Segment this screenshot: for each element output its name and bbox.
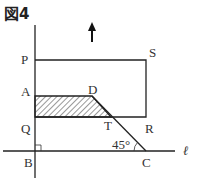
right-angle-mark xyxy=(35,145,41,151)
label-D: D xyxy=(88,82,97,97)
label-T: T xyxy=(104,118,112,133)
hatched-region xyxy=(35,96,111,117)
label-l: ℓ xyxy=(183,143,189,158)
label-R: R xyxy=(145,121,154,136)
label-A: A xyxy=(21,84,31,99)
label-P: P xyxy=(21,52,28,67)
label-S: S xyxy=(149,45,156,60)
label-C: C xyxy=(142,155,151,170)
label-B: B xyxy=(24,155,33,170)
label-Q: Q xyxy=(21,121,31,136)
geometry-diagram: P S A D Q T R B C ℓ 45° xyxy=(0,0,204,181)
angle-arc xyxy=(134,143,138,152)
label-angle: 45° xyxy=(112,137,130,152)
